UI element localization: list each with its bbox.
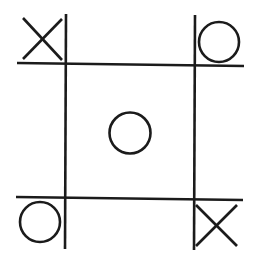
cell-r0-c0[interactable]: X	[21, 17, 65, 61]
cell-r0-c2[interactable]: O	[199, 22, 243, 66]
cell-r1-c2[interactable]	[197, 109, 241, 153]
grid-line-horizontal-bottom	[16, 197, 243, 200]
cell-r2-c1[interactable]	[108, 203, 152, 247]
cell-r2-c2[interactable]: X	[195, 204, 239, 248]
cell-r2-c0[interactable]: O	[20, 202, 64, 246]
o-mark-icon	[199, 22, 239, 62]
x-mark-icon	[196, 205, 237, 246]
grid-line-vertical-left	[65, 14, 66, 249]
tic-tac-toe-board: X O	[0, 0, 257, 266]
cell-r1-c1[interactable]: O	[109, 112, 153, 156]
cell-r0-c1[interactable]	[108, 18, 152, 62]
o-mark-icon	[110, 113, 151, 154]
o-mark-icon	[20, 202, 60, 242]
x-mark-icon	[23, 18, 62, 60]
cell-r1-c0[interactable]	[18, 109, 62, 153]
